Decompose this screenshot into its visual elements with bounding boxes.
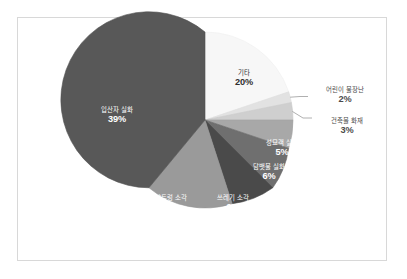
leader-line-building-fire [292, 111, 312, 118]
leader-line-children-playing-with-fire [290, 97, 308, 98]
pie-chart-svg [0, 0, 407, 279]
pie-chart-figure: 기타 20% 어린이 불장난 2% 건축물 화재 3% 성묘객 실화 5% 담뱃… [0, 0, 407, 279]
